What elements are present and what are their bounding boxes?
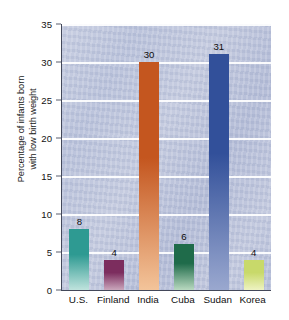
bar-value-label: 6 bbox=[181, 231, 186, 242]
bar-value-label: 30 bbox=[144, 49, 155, 60]
y-axis-title-line-1: Percentage of infants born bbox=[16, 34, 28, 224]
bar-value-label: 4 bbox=[251, 247, 256, 258]
y-axis-tick-label: 5 bbox=[30, 247, 52, 258]
bar: 4 bbox=[104, 260, 124, 290]
gridline bbox=[62, 252, 271, 254]
y-axis-tick-label: 20 bbox=[30, 133, 52, 144]
bar: 8 bbox=[69, 229, 89, 290]
bar: 31 bbox=[209, 54, 229, 290]
y-axis-tick-labels: 05101520253035 bbox=[30, 0, 52, 320]
x-axis-tick-labels: U.S.FinlandIndiaCubaSudanKorea bbox=[61, 294, 270, 312]
y-axis-tick-label: 10 bbox=[30, 209, 52, 220]
bar-value-label: 31 bbox=[213, 41, 224, 52]
gridline bbox=[62, 62, 271, 64]
y-axis-tick-label: 15 bbox=[30, 171, 52, 182]
gridline bbox=[62, 214, 271, 216]
plot-area: 84306314 bbox=[61, 24, 271, 291]
gridline bbox=[62, 100, 271, 102]
y-axis-tick-label: 25 bbox=[30, 95, 52, 106]
y-axis-tick-label: 0 bbox=[30, 285, 52, 296]
plot-background bbox=[62, 24, 271, 290]
gridline bbox=[62, 24, 271, 26]
bar-value-label: 4 bbox=[112, 247, 117, 258]
x-axis-tick-label: Cuba bbox=[171, 294, 195, 305]
bar: 4 bbox=[244, 260, 264, 290]
x-axis-tick-label: Sudan bbox=[203, 294, 232, 305]
y-axis-tick-label: 30 bbox=[30, 57, 52, 68]
bar-chart-figure: Percentage of infants born with low birt… bbox=[0, 0, 289, 320]
x-axis-tick-label: Korea bbox=[239, 294, 265, 305]
y-axis-tick-label: 35 bbox=[30, 19, 52, 30]
gridline bbox=[62, 138, 271, 140]
bar: 30 bbox=[139, 62, 159, 290]
gridline bbox=[62, 176, 271, 178]
x-axis-tick-label: Finland bbox=[97, 294, 129, 305]
x-axis-tick-label: India bbox=[137, 294, 158, 305]
bar-value-label: 8 bbox=[77, 216, 82, 227]
x-axis-tick-label: U.S. bbox=[69, 294, 88, 305]
bar: 6 bbox=[174, 244, 194, 290]
